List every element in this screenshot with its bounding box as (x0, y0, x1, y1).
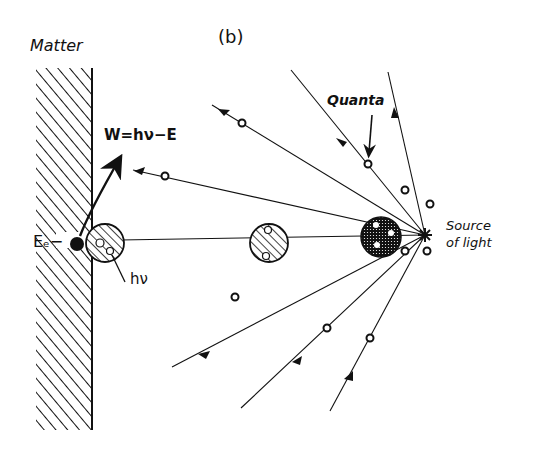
arrow-icon (292, 356, 302, 365)
arrow-icon (344, 371, 353, 381)
work-equation-label: W=hν−E (104, 126, 177, 144)
arrow-icon (391, 107, 399, 118)
electron (70, 237, 84, 251)
source-label-line2: of light (446, 235, 491, 250)
arrow-icon (336, 138, 347, 147)
photon-energy-label: hν (130, 270, 148, 288)
arrow-icon (134, 167, 145, 175)
photon-near-source (361, 217, 401, 257)
photoelectric-diagram: (b) Matter W=hν−E Quanta Source of light… (0, 0, 537, 458)
light-source-star-icon (418, 228, 432, 242)
matter-label: Matter (30, 36, 83, 55)
electron-energy-label: Eₑ− (33, 232, 63, 251)
photon-midway (250, 224, 288, 262)
photon-at-surface (86, 224, 124, 262)
hv-pointer-line (112, 255, 125, 282)
source-label-line1: Source (446, 218, 491, 233)
quanta-label: Quanta (327, 92, 384, 108)
panel-label: (b) (218, 26, 243, 47)
quanta-pointer-arrow (369, 115, 372, 152)
